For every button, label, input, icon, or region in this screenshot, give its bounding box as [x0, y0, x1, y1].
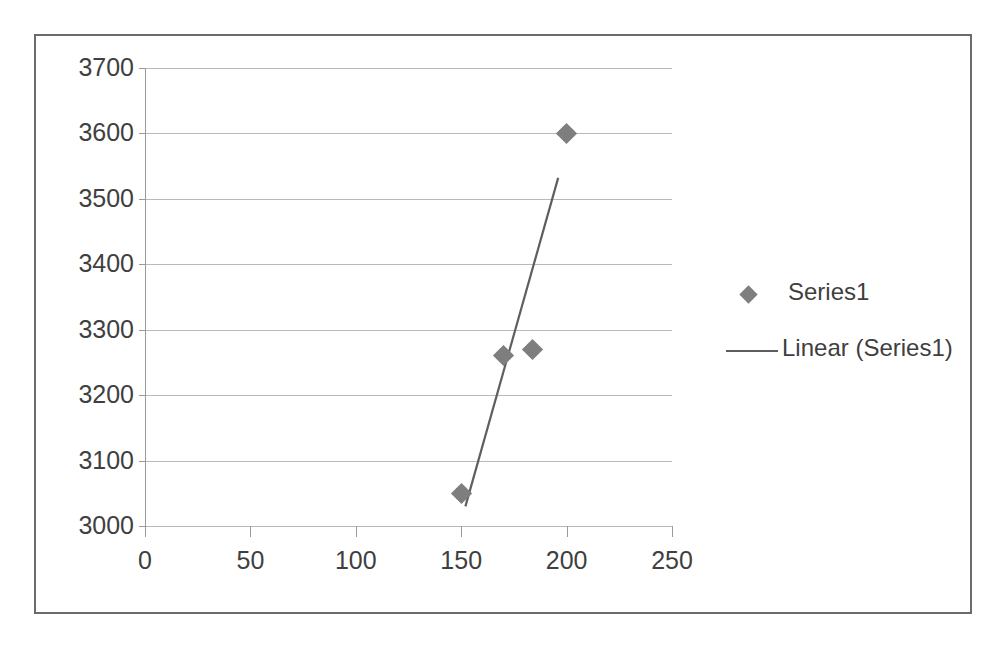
- trendline-layer: [145, 68, 672, 526]
- plot-area: [145, 68, 672, 526]
- x-axis-tick-label: 250: [627, 548, 717, 573]
- linear-trendline: [465, 178, 558, 506]
- y-axis-tick: [139, 68, 146, 69]
- y-axis-tick: [139, 264, 146, 265]
- gridline: [145, 330, 672, 331]
- y-axis-tick-label: 3300: [64, 317, 134, 342]
- y-axis-line: [145, 68, 146, 526]
- x-axis-tick: [461, 526, 462, 537]
- y-axis-tick-label: 3700: [64, 55, 134, 80]
- x-axis-tick-label: 100: [311, 548, 401, 573]
- gridline: [145, 395, 672, 396]
- y-axis-tick-label: 3200: [64, 382, 134, 407]
- diamond-marker-icon: [739, 285, 757, 303]
- legend-item-linear-series1[interactable]: Linear (Series1): [726, 332, 966, 388]
- gridline: [145, 199, 672, 200]
- legend-label-linear-series1: Linear (Series1): [782, 335, 953, 361]
- data-point-marker: [451, 483, 472, 504]
- legend-item-series1[interactable]: Series1: [726, 276, 966, 332]
- y-axis-tick: [139, 199, 146, 200]
- y-axis-tick: [139, 330, 146, 331]
- x-axis-tick-label: 50: [205, 548, 295, 573]
- chart-legend: Series1 Linear (Series1): [726, 276, 966, 388]
- x-axis-tick: [672, 526, 673, 537]
- line-swatch-icon: [726, 350, 778, 352]
- x-axis-tick-label: 150: [416, 548, 506, 573]
- y-axis-tick-label: 3600: [64, 120, 134, 145]
- y-axis-tick-label: 3000: [64, 513, 134, 538]
- legend-label-series1: Series1: [788, 279, 869, 305]
- y-axis-tick-label: 3400: [64, 251, 134, 276]
- y-axis-tick: [139, 133, 146, 134]
- x-axis-tick: [145, 526, 146, 537]
- y-axis-tick: [139, 461, 146, 462]
- x-axis-tick-label: 0: [100, 548, 190, 573]
- chart-container: 30003100320033003400350036003700 0501001…: [34, 34, 972, 614]
- gridline: [145, 133, 672, 134]
- x-axis-tick: [356, 526, 357, 537]
- gridline: [145, 264, 672, 265]
- x-axis-tick: [567, 526, 568, 537]
- y-axis-tick-label: 3100: [64, 448, 134, 473]
- data-point-marker: [522, 339, 543, 360]
- x-axis-tick: [250, 526, 251, 537]
- gridline: [145, 461, 672, 462]
- x-axis-tick-label: 200: [522, 548, 612, 573]
- y-axis-tick-label: 3500: [64, 186, 134, 211]
- data-point-marker: [556, 123, 577, 144]
- gridline: [145, 526, 672, 527]
- y-axis-tick: [139, 395, 146, 396]
- gridline: [145, 68, 672, 69]
- data-point-marker: [493, 345, 514, 366]
